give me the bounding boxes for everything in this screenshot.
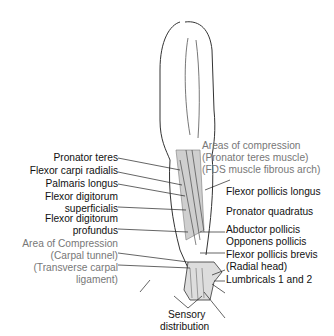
label-radial-head: (Radial head) (226, 261, 287, 273)
label-flexor-pollicis-brevis: Flexor pollicis brevis (226, 249, 318, 261)
label-pronator-quadratus: Pronator quadratus (226, 206, 313, 218)
label-palmaris-longus: Palmaris longus (46, 178, 118, 190)
label-pronator-teres: Pronator teres (53, 152, 118, 164)
label-compression-carpal-3: (Transverse carpal (33, 262, 118, 274)
label-lumbricals: Lumbricals 1 and 2 (226, 274, 312, 286)
label-compression-carpal-4: ligament) (76, 274, 118, 286)
label-areas-compression-2: (Pronator teres muscle) (202, 152, 308, 164)
label-sensory-2: distribution (160, 321, 209, 333)
label-compression-carpal-1: Area of Compression (22, 238, 118, 250)
label-areas-compression-1: Areas of compression (202, 140, 301, 152)
label-areas-compression-3: (FDS muscle fibrous arch) (202, 164, 320, 176)
label-flexor-carpi-radialis: Flexor carpi radialis (30, 165, 118, 177)
label-abductor-pollicis: Abductor pollicis (226, 224, 300, 236)
label-fds-1: Flexor digitorum (45, 191, 118, 203)
label-compression-carpal-2: (Carpal tunnel) (51, 250, 118, 262)
label-flexor-pollicis-longus: Flexor pollicis longus (226, 186, 321, 198)
label-opponens-pollicis: Opponens pollicis (226, 236, 306, 248)
label-fdp-1: Flexor digitorum (45, 213, 118, 225)
label-fdp-2: profundus (73, 225, 118, 237)
label-sensory-1: Sensory (168, 309, 205, 321)
